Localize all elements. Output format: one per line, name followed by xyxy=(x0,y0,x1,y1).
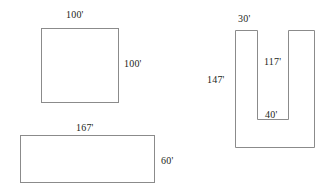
u-shape-top-dimension-label: 30' xyxy=(238,13,250,24)
u-shape-notch-width-label: 40' xyxy=(265,109,277,120)
u-shape-outline xyxy=(236,31,315,148)
u-shape-svg xyxy=(0,0,331,193)
u-shape-notch-depth-label: 117' xyxy=(264,56,281,67)
u-shape-left-dimension-label: 147' xyxy=(207,74,225,85)
figure-canvas: 100' 100' 167' 60' 30' 147' 117' 40' xyxy=(0,0,331,193)
